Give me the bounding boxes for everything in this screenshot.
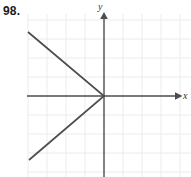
x-axis-label: x: [183, 91, 187, 101]
coordinate-plane-graph: [0, 0, 191, 177]
x-axis-arrowhead: [175, 92, 183, 100]
y-axis-label: y: [98, 2, 102, 12]
y-axis-arrowhead: [100, 12, 108, 19]
axes: [27, 12, 183, 177]
figure-container: 98.: [0, 0, 191, 177]
